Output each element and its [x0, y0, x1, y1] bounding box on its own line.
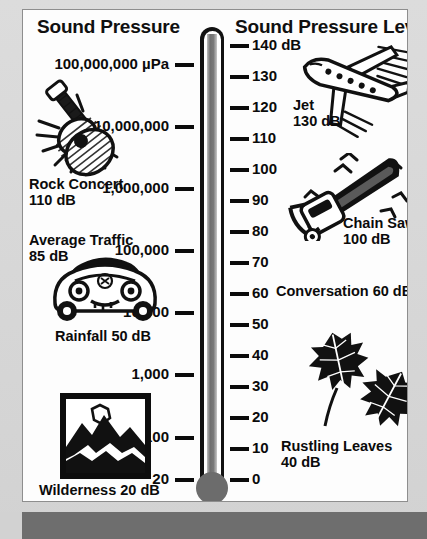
tick-label-1e8-upa: 100,000,000 µPa: [54, 56, 169, 71]
tick-label-0db: 0: [252, 471, 260, 486]
tick-mark-50db: [230, 323, 249, 327]
tick-mark-20db: [230, 416, 249, 420]
tick-label-90db: 90: [252, 192, 269, 207]
label-rustling-leaves: Rustling Leaves 40 dB: [281, 438, 408, 470]
tick-mark-70db: [230, 261, 249, 265]
label-rainfall: Rainfall 50 dB: [55, 328, 195, 344]
tick-mark-100-upa: [175, 436, 194, 440]
bottom-gray-band: [22, 512, 427, 539]
tick-mark-80db: [230, 230, 249, 234]
tick-label-30db: 30: [252, 378, 269, 393]
tick-mark-90db: [230, 199, 249, 203]
thermometer-mercury-column: [207, 34, 217, 494]
tick-label-70db: 70: [252, 254, 269, 269]
tick-mark-60db: [230, 292, 249, 296]
label-average-traffic: Average Traffic 85 dB: [29, 232, 159, 264]
tick-label-120db: 120: [252, 99, 277, 114]
label-wilderness: Wilderness 20 dB: [39, 482, 189, 498]
tick-label-20db: 20: [252, 409, 269, 424]
poster-card: Sound Pressure Sound Pressure Level 140 …: [22, 9, 408, 502]
page-title-sound-pressure: Sound Pressure: [37, 16, 180, 38]
tick-mark-1e8-upa: [175, 63, 194, 67]
tick-mark-1e5-upa: [175, 249, 194, 253]
tick-label-10db: 10: [252, 440, 269, 455]
tick-mark-1e4-upa: [175, 311, 194, 315]
tick-mark-120db: [230, 106, 249, 110]
tick-mark-1e3-upa: [175, 373, 194, 377]
tick-mark-110db: [230, 137, 249, 141]
label-chain-saw: Chain Saw 100 dB: [343, 215, 408, 247]
label-jet: Jet 130 dB: [293, 97, 363, 129]
tick-label-80db: 80: [252, 223, 269, 238]
tick-mark-100db: [230, 168, 249, 172]
tick-mark-1e7-upa: [175, 125, 194, 129]
tick-mark-1e6-upa: [175, 187, 194, 191]
tick-label-100db: 100: [252, 161, 277, 176]
tick-mark-140db: [230, 44, 249, 48]
leaves-icon: [295, 330, 408, 440]
tick-label-130db: 130: [252, 68, 277, 83]
tick-label-40db: 40: [252, 347, 269, 362]
label-rock-concert: Rock Concert 110 dB: [29, 176, 149, 208]
tick-mark-0db: [230, 478, 249, 482]
tick-mark-40db: [230, 354, 249, 358]
mountain-photo-icon: [60, 393, 151, 479]
tick-label-50db: 50: [252, 316, 269, 331]
label-conversation: Conversation 60 dB: [276, 283, 408, 299]
tick-label-60db: 60: [252, 285, 269, 300]
guitar-icon: [31, 73, 141, 178]
tick-mark-130db: [230, 75, 249, 79]
sound-pressure-poster: Sound Pressure Sound Pressure Level 140 …: [0, 0, 427, 539]
tick-mark-10db: [230, 447, 249, 451]
thermometer-bulb: [196, 472, 228, 502]
tick-mark-30db: [230, 385, 249, 389]
bottom-band-left-margin: [0, 512, 22, 539]
thermometer-graphic: [197, 27, 227, 502]
tick-label-1e3-upa: 1,000: [131, 366, 169, 381]
tick-label-110db: 110: [252, 130, 276, 145]
